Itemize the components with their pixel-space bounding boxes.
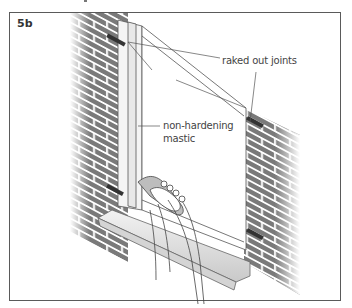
right-brick-wall bbox=[244, 108, 300, 295]
callout-line-1: non-hardening bbox=[163, 119, 234, 132]
callout-raked-out-joints: raked out joints bbox=[222, 54, 297, 67]
callout-non-hardening-mastic: non-hardening mastic bbox=[163, 119, 234, 145]
callout-line-2: mastic bbox=[163, 132, 234, 145]
figure-label: 5b bbox=[17, 17, 33, 30]
window-mastic-illustration bbox=[0, 0, 352, 308]
